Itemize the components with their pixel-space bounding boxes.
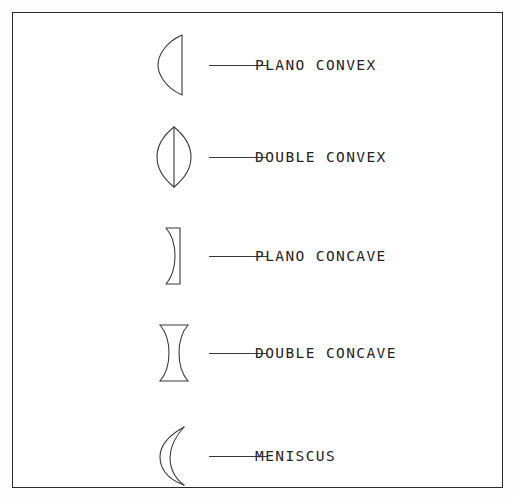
- lens-row-meniscus: MENISCUS: [12, 413, 503, 499]
- lens-label-plano-convex: PLANO CONVEX: [255, 22, 377, 108]
- lens-row-double-convex: DOUBLE CONVEX: [12, 114, 503, 200]
- lens-row-double-concave: DOUBLE CONCAVE: [12, 310, 503, 396]
- lens-label-double-concave: DOUBLE CONCAVE: [255, 310, 397, 396]
- lens-row-plano-convex: PLANO CONVEX: [12, 22, 503, 108]
- lens-label-plano-concave: PLANO CONCAVE: [255, 213, 387, 299]
- meniscus-lens-icon: [142, 413, 206, 499]
- double-convex-lens-icon: [142, 114, 206, 200]
- double-concave-lens-icon: [142, 310, 206, 396]
- lens-types-diagram: PLANO CONVEX DOUBLE CONVEX PLANO CONCAVE: [0, 0, 516, 501]
- lens-label-double-convex: DOUBLE CONVEX: [255, 114, 387, 200]
- plano-concave-lens-icon: [142, 213, 206, 299]
- plano-convex-lens-icon: [142, 22, 206, 108]
- lens-row-plano-concave: PLANO CONCAVE: [12, 213, 503, 299]
- lens-label-meniscus: MENISCUS: [255, 413, 336, 499]
